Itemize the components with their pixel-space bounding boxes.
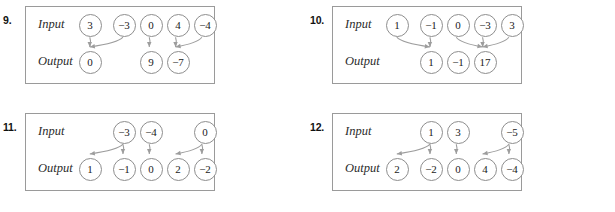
input-circle: −1 [420, 14, 443, 37]
input-circle: −4 [194, 14, 217, 37]
problem-number: 10. [310, 6, 332, 26]
arrow-path [90, 37, 123, 47]
function-machine-box: InputOutput3−304−409−7 [25, 6, 215, 84]
input-circle: −3 [474, 14, 497, 37]
output-circle: 0 [447, 158, 470, 181]
problem-12: 12.InputOutput13−52−204−4 [310, 113, 522, 191]
problem-number: 11. [3, 113, 25, 133]
arrow-head [147, 149, 151, 154]
input-circle: 3 [79, 14, 102, 37]
output-circle: 2 [386, 158, 409, 181]
arrow-head [90, 151, 95, 155]
arrow-head [454, 149, 458, 154]
output-circle: −1 [113, 158, 136, 181]
problem-9: 9.InputOutput3−304−409−7 [3, 6, 215, 84]
output-circle: −2 [420, 158, 443, 181]
problem-number: 12. [310, 113, 332, 133]
arrow-path [397, 37, 430, 47]
problem-11: 11.InputOutput−3−401−102−2 [3, 113, 215, 191]
arrow-path [90, 144, 123, 154]
input-circle: −3 [113, 14, 136, 37]
output-circle: 17 [474, 51, 497, 74]
problem-number: 9. [3, 6, 25, 26]
input-circle: 0 [447, 14, 470, 37]
cut-off-text-artifact [232, 0, 352, 5]
arrow-head [507, 149, 511, 154]
arrow-head [428, 149, 432, 154]
output-circle: −7 [167, 51, 190, 74]
input-circle: 0 [194, 121, 217, 144]
arrow-head [397, 151, 402, 155]
output-circle: 4 [474, 158, 497, 181]
arrow-head [200, 149, 204, 154]
output-circle: −4 [501, 158, 524, 181]
function-machine-box: InputOutput1−10−331−117 [332, 6, 522, 84]
arrow-head [147, 42, 151, 47]
arrow-head [121, 149, 125, 154]
problem-10: 10.InputOutput1−10−331−117 [310, 6, 522, 84]
function-machine-box: InputOutput−3−401−102−2 [25, 113, 215, 191]
output-circle: 2 [167, 158, 190, 181]
output-circle: 0 [140, 158, 163, 181]
input-circle: 3 [501, 14, 524, 37]
output-circle: 1 [420, 51, 443, 74]
arrow-head [176, 151, 181, 155]
input-circle: 3 [447, 121, 470, 144]
input-circle: −4 [140, 121, 163, 144]
input-circle: −3 [113, 121, 136, 144]
input-circle: 4 [167, 14, 190, 37]
worksheet-page: 9.InputOutput3−304−409−710.InputOutput1−… [0, 0, 615, 212]
input-circle: −5 [501, 121, 524, 144]
output-circle: −1 [447, 51, 470, 74]
input-circle: 0 [140, 14, 163, 37]
arrow-path [397, 144, 430, 154]
output-circle: 1 [79, 158, 102, 181]
function-machine-box: InputOutput13−52−204−4 [332, 113, 522, 191]
output-circle: −2 [194, 158, 217, 181]
input-circle: 1 [420, 121, 443, 144]
input-circle: 1 [386, 14, 409, 37]
output-circle: 9 [140, 51, 163, 74]
output-circle: 0 [79, 51, 102, 74]
arrow-head [483, 151, 488, 155]
